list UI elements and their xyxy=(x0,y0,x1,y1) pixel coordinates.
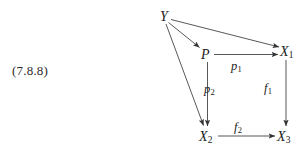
node-X3-subscript: 3 xyxy=(286,135,291,145)
edge-label-p2: p2 xyxy=(204,83,215,96)
edge-label-p1: p1 xyxy=(231,60,242,73)
node-P: P xyxy=(201,48,210,62)
node-P-label: P xyxy=(201,47,210,62)
commutative-diagram-figure: (7.8.8) Y P X1 X2 X3 p1 p2 xyxy=(0,0,306,153)
node-Y: Y xyxy=(160,10,168,24)
arrow-Y-to-X1 xyxy=(171,20,279,48)
node-Y-label: Y xyxy=(160,9,168,24)
node-X1-subscript: 1 xyxy=(289,50,294,60)
diagram-arrows xyxy=(0,0,306,153)
node-X2: X2 xyxy=(199,130,213,146)
edge-label-p2-subscript: 2 xyxy=(210,87,215,97)
edge-label-f1-subscript: 1 xyxy=(267,86,272,96)
node-X2-subscript: 2 xyxy=(208,135,213,145)
edge-label-f2: f2 xyxy=(234,121,242,134)
node-X3-label: X xyxy=(277,129,286,144)
edge-label-f1: f1 xyxy=(264,82,272,95)
node-X3: X3 xyxy=(277,130,291,146)
node-X2-label: X xyxy=(199,129,208,144)
edge-label-p1-subscript: 1 xyxy=(237,64,242,74)
edge-label-f2-subscript: 2 xyxy=(237,125,242,135)
node-X1: X1 xyxy=(280,45,294,61)
node-X1-label: X xyxy=(280,44,289,59)
arrow-Y-to-X2 xyxy=(166,24,204,126)
